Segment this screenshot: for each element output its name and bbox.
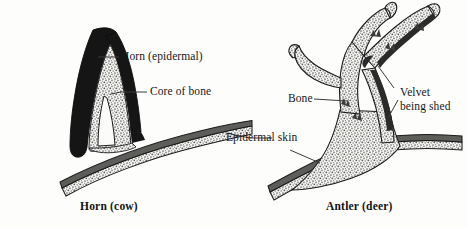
caption-horn-cow: Horn (cow) xyxy=(80,200,138,212)
epidermis-dark-band-right xyxy=(393,135,462,143)
antler-brow-tine xyxy=(295,46,341,88)
label-bone: Bone xyxy=(288,92,313,104)
horn-antler-figure: Horn (epidermal) Core of bone Epidermal … xyxy=(0,0,467,228)
label-epidermal-skin: Epidermal skin xyxy=(226,131,297,143)
caption-antler-deer: Antler (deer) xyxy=(326,200,393,212)
sheath-base-right xyxy=(131,132,145,143)
dermis-stipple-band-right xyxy=(393,141,462,151)
leader-epidermal-skin-antler xyxy=(290,150,320,163)
figure-artwork xyxy=(0,0,467,228)
label-core-of-bone: Core of bone xyxy=(150,85,211,97)
label-velvet-line1: Velvet xyxy=(400,86,430,98)
label-horn-epidermal: Horn (epidermal) xyxy=(121,50,203,62)
label-velvet-line2: being shed xyxy=(400,100,451,112)
